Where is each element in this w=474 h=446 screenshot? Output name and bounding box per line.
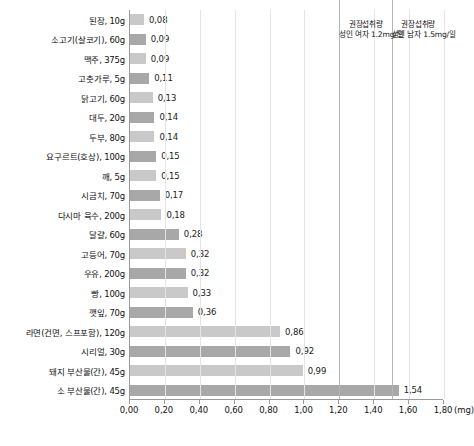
category-label: 시리얼, 30g xyxy=(81,342,125,362)
annotation-line-2: 성인 남자 1.5mg/일 xyxy=(392,30,445,40)
category-label: 깨, 5g xyxy=(102,166,125,186)
bar xyxy=(130,170,156,181)
x-tick-label: 0,20 xyxy=(155,405,174,415)
annotation-line-1: 권장섭취량 xyxy=(392,20,445,30)
category-label: 시금치, 70g xyxy=(81,186,125,206)
bar-row: 0,32 xyxy=(130,264,443,284)
x-tick xyxy=(234,400,235,404)
x-tick-label: 1,40 xyxy=(364,405,383,415)
category-label: 요구르트(호상), 100g xyxy=(46,147,125,167)
grid-line xyxy=(200,10,201,399)
bar-row: 0,17 xyxy=(130,186,443,206)
bar-rows: 0,080,090,090,110,130,140,140,150,150,17… xyxy=(130,10,443,399)
x-tick-label: 0,00 xyxy=(120,405,139,415)
bar-row: 0,14 xyxy=(130,127,443,147)
category-label: 대두, 20g xyxy=(89,108,125,128)
x-tick xyxy=(373,400,374,404)
bar xyxy=(130,151,156,162)
bar xyxy=(130,229,179,240)
bar-row: 0,28 xyxy=(130,225,443,245)
bar xyxy=(130,307,193,318)
bar-value-label: 0,86 xyxy=(285,327,304,337)
category-label: 다시마 육수, 200g xyxy=(58,205,125,225)
bar xyxy=(130,287,188,298)
category-label: 된장, 10g xyxy=(89,10,125,30)
bar xyxy=(130,34,146,45)
bar xyxy=(130,326,280,337)
bar xyxy=(130,92,153,103)
bar xyxy=(130,248,186,259)
x-tick-label: 1,20 xyxy=(329,405,348,415)
x-tick-label: 1,80 xyxy=(434,405,453,415)
x-tick-label: 0,80 xyxy=(259,405,278,415)
bar xyxy=(130,346,290,357)
bar-row: 0,32 xyxy=(130,244,443,264)
bar xyxy=(130,385,399,396)
category-label: 소 부산물(간), 45g xyxy=(57,381,125,401)
bar xyxy=(130,209,161,220)
bar-value-label: 0,09 xyxy=(151,54,170,64)
x-tick xyxy=(269,400,270,404)
bar-value-label: 0,09 xyxy=(151,34,170,44)
bar xyxy=(130,112,154,123)
category-label: 닭고기, 60g xyxy=(81,88,125,108)
category-label: 라면(건면, 스프포함), 120g xyxy=(26,322,125,342)
x-axis-unit-label: (mg) xyxy=(454,405,474,415)
category-label: 두부, 80g xyxy=(89,127,125,147)
reference-line-1-2 xyxy=(339,0,340,399)
bar-value-label: 0,13 xyxy=(158,93,177,103)
bar-value-label: 0,11 xyxy=(154,73,173,83)
plot-area: 0,080,090,090,110,130,140,140,150,150,17… xyxy=(129,10,443,400)
bar-row: 0,14 xyxy=(130,108,443,128)
bar-row: 0,36 xyxy=(130,303,443,323)
bar xyxy=(130,365,303,376)
x-tick xyxy=(199,400,200,404)
bar-value-label: 0,18 xyxy=(166,210,185,220)
grid-line xyxy=(235,10,236,399)
bar xyxy=(130,14,144,25)
category-axis-labels: 된장, 10g소고기(살코기), 60g맥주, 375g고춧가루, 5g닭고기,… xyxy=(0,10,125,400)
x-tick-label: 0,60 xyxy=(224,405,243,415)
grid-line xyxy=(270,10,271,399)
annotation-line-2: 성인 여자 1.2mg/일 xyxy=(339,30,392,40)
bar-row: 0,86 xyxy=(130,322,443,342)
bar xyxy=(130,73,149,84)
x-axis: 0,000,200,400,600,801,001,201,401,601,80… xyxy=(129,400,471,420)
bar-row: 0,18 xyxy=(130,205,443,225)
bar-row: 0,15 xyxy=(130,147,443,167)
category-label: 고등어, 70g xyxy=(81,244,125,264)
bar-row: 0,92 xyxy=(130,342,443,362)
bar-row: 0,13 xyxy=(130,88,443,108)
grid-line xyxy=(374,10,375,399)
grid-line xyxy=(304,10,305,399)
x-tick xyxy=(338,400,339,404)
category-label: 돼지 부산물(간), 45g xyxy=(49,361,125,381)
category-label: 소고기(살코기), 60g xyxy=(51,30,125,50)
category-label: 고춧가루, 5g xyxy=(78,69,125,89)
bar-value-label: 1,54 xyxy=(404,385,423,395)
bar-row: 1,54 xyxy=(130,381,443,401)
grid-line xyxy=(444,10,445,399)
bar-row: 0,11 xyxy=(130,69,443,89)
reference-annotation-1-5: 권장섭취량성인 남자 1.5mg/일 xyxy=(392,20,445,41)
category-label: 우유, 200g xyxy=(84,264,125,284)
category-label: 달걀, 60g xyxy=(89,225,125,245)
grid-line xyxy=(409,10,410,399)
x-tick xyxy=(164,400,165,404)
bar xyxy=(130,268,186,279)
x-tick xyxy=(408,400,409,404)
x-tick xyxy=(303,400,304,404)
category-label: 맥주, 375g xyxy=(84,49,125,69)
reference-annotation-1-2: 권장섭취량성인 여자 1.2mg/일 xyxy=(339,20,392,41)
x-tick-label: 1,00 xyxy=(294,405,313,415)
x-tick xyxy=(443,400,444,404)
bar xyxy=(130,53,146,64)
bar xyxy=(130,190,160,201)
bar xyxy=(130,131,154,142)
bar-value-label: 0,99 xyxy=(308,366,327,376)
x-tick-label: 0,40 xyxy=(190,405,209,415)
annotation-line-1: 권장섭취량 xyxy=(339,20,392,30)
category-label: 빵, 100g xyxy=(91,283,125,303)
grid-line xyxy=(165,10,166,399)
